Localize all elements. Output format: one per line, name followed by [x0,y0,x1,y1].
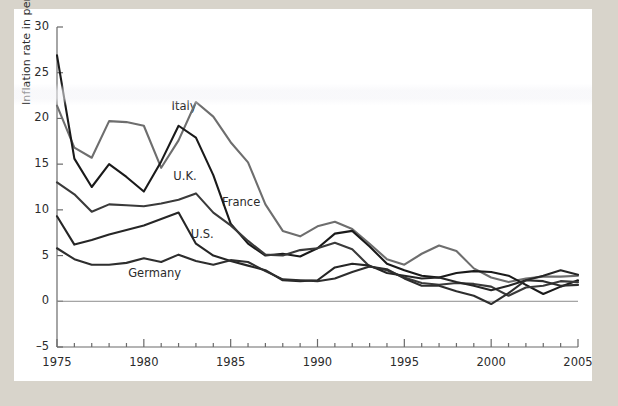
series-line-italy [57,102,578,282]
series-line-germany [57,248,578,304]
line-chart-plot [14,9,592,381]
data-series-lines [57,55,578,304]
series-line-uk [57,55,578,294]
series-line-us [57,213,578,291]
chart-figure: Inflation rate in percent –5051015202530… [14,9,592,381]
